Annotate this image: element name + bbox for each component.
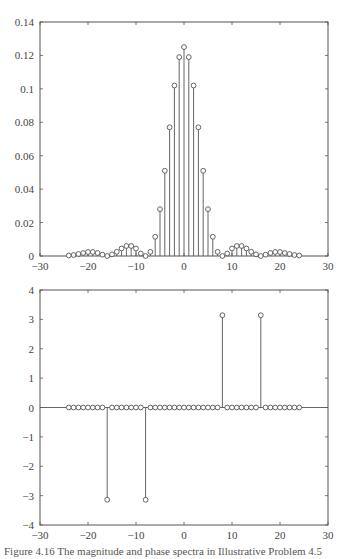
x-tick-label: 10 (227, 260, 239, 272)
stem-marker (81, 251, 86, 256)
stem-marker (105, 254, 110, 259)
stem-marker (153, 234, 158, 239)
x-tick-label: 0 (181, 260, 187, 272)
stem-marker (254, 252, 259, 257)
stem-marker (158, 207, 163, 212)
stem-marker (254, 405, 259, 410)
stem-marker (201, 168, 206, 173)
stem-marker (282, 405, 287, 410)
x-tick-label: 30 (323, 529, 335, 541)
y-tick-label: 0.12 (15, 49, 34, 61)
stem-marker (268, 405, 273, 410)
stem-marker (95, 405, 100, 410)
stem-marker (105, 497, 110, 502)
stem-marker (278, 250, 283, 255)
stem-marker (172, 83, 177, 88)
y-tick-label: 2 (29, 343, 35, 355)
stem-marker (124, 405, 129, 410)
stem-marker (138, 251, 143, 256)
x-tick-label: −10 (127, 260, 145, 272)
stem-marker (244, 405, 249, 410)
x-tick-label: −20 (79, 529, 97, 541)
magnitude-spectrum-plot: −30−20−10010203000.020.040.060.080.10.12… (15, 16, 334, 272)
stem-marker (297, 253, 302, 258)
stem-marker (119, 405, 124, 410)
y-tick-label: 0.02 (15, 217, 34, 229)
stem-marker (71, 405, 76, 410)
stem-marker (273, 405, 278, 410)
stem-marker (196, 125, 201, 130)
stem-marker (191, 83, 196, 88)
stem-marker (153, 405, 158, 410)
stem-marker (263, 405, 268, 410)
stem-marker (148, 249, 153, 254)
stem-marker (162, 168, 167, 173)
stem-marker (249, 249, 254, 254)
stem-marker (148, 405, 153, 410)
stem-marker (76, 252, 81, 257)
stem-marker (167, 405, 172, 410)
x-tick-label: 20 (275, 260, 287, 272)
x-tick-label: 0 (181, 529, 187, 541)
stem-marker (196, 405, 201, 410)
stem-marker (114, 249, 119, 254)
stem-marker (244, 246, 249, 251)
stem-marker (287, 405, 292, 410)
stem-marker (172, 405, 177, 410)
y-tick-label: −3 (22, 490, 34, 502)
stem-marker (129, 405, 134, 410)
y-tick-label: 0.08 (15, 116, 35, 128)
y-tick-label: 4 (29, 284, 35, 296)
x-tick-label: 10 (227, 529, 239, 541)
stem-marker (186, 405, 191, 410)
stem-marker (258, 313, 263, 318)
y-tick-label: 0.04 (15, 183, 35, 195)
stem-marker (119, 246, 124, 251)
figure-caption: Figure 4.16 The magnitude and phase spec… (4, 545, 349, 557)
stem-marker (71, 253, 76, 258)
stem-marker (234, 244, 239, 249)
x-tick-label: 20 (275, 529, 287, 541)
stem-marker (182, 45, 187, 50)
y-tick-label: 3 (29, 313, 35, 325)
x-tick-label: −30 (31, 260, 49, 272)
stem-marker (210, 234, 215, 239)
stem-marker (191, 405, 196, 410)
stem-marker (158, 405, 163, 410)
stem-marker (182, 405, 187, 410)
stem-marker (90, 405, 95, 410)
stem-marker (90, 250, 95, 255)
stem-marker (124, 244, 129, 249)
stem-marker (143, 497, 148, 502)
stem-marker (249, 405, 254, 410)
stem-marker (230, 405, 235, 410)
x-tick-label: −20 (79, 260, 97, 272)
stem-marker (110, 252, 115, 257)
stem-marker (206, 405, 211, 410)
stem-marker (143, 254, 148, 259)
y-tick-label: −4 (22, 519, 34, 531)
stem-marker (86, 250, 91, 255)
stem-marker (268, 251, 273, 256)
stem-marker (239, 244, 244, 249)
stem-marker (263, 252, 268, 257)
stem-marker (162, 405, 167, 410)
stem-marker (186, 55, 191, 60)
stem-marker (215, 405, 220, 410)
stem-marker (287, 252, 292, 257)
stem-marker (134, 405, 139, 410)
stem-marker (258, 254, 263, 259)
stem-marker (177, 405, 182, 410)
stem-marker (230, 246, 235, 251)
stem-marker (134, 246, 139, 251)
stem-marker (81, 405, 86, 410)
y-tick-label: −2 (22, 460, 34, 472)
stem-marker (66, 253, 71, 258)
y-tick-label: 0.1 (20, 83, 34, 95)
stem-marker (225, 251, 230, 256)
stem-marker (282, 251, 287, 256)
stem-marker (273, 250, 278, 255)
stem-marker (95, 251, 100, 256)
stem-marker (220, 313, 225, 318)
